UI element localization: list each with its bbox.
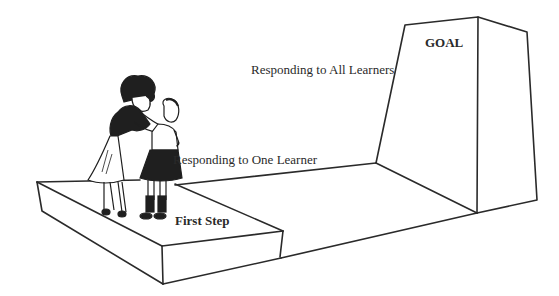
middle-level-platform [175,163,477,258]
first-step-label: First Step [175,214,230,227]
goal-label: GOAL [425,36,463,49]
staircase-diagram [0,0,559,296]
all-learners-label: Responding to All Learners [251,63,394,76]
one-learner-label: Responding to One Learner [173,153,317,166]
